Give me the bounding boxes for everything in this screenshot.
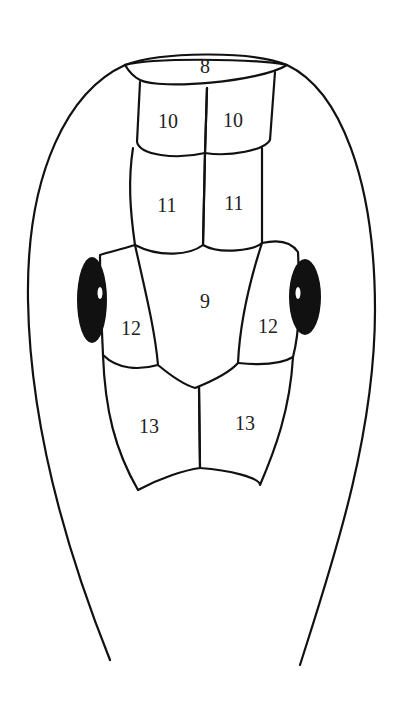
eye-right	[289, 259, 321, 335]
label-12-left: 12	[121, 317, 141, 339]
label-13-right: 13	[235, 412, 255, 434]
head-outline	[28, 60, 375, 665]
label-11-right: 11	[224, 192, 243, 214]
label-9: 9	[200, 290, 210, 312]
label-11-left: 11	[157, 194, 176, 216]
label-8: 8	[200, 55, 210, 77]
label-10-left: 10	[158, 110, 178, 132]
label-10-right: 10	[223, 109, 243, 131]
snake-head-diagram: 8 10 10 11 11 9 12 12 13 13	[0, 0, 395, 701]
label-12-right: 12	[258, 315, 278, 337]
label-13-left: 13	[139, 415, 159, 437]
eye-left	[77, 257, 107, 343]
